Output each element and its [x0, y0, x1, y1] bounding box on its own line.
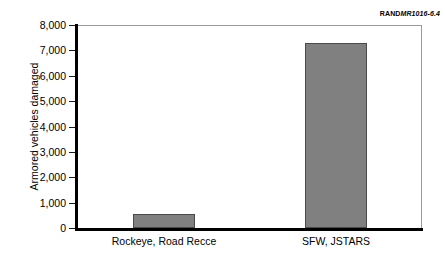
y-axis-tick: [69, 127, 75, 128]
rand-credit: RANDMR1016-6.4: [380, 9, 440, 18]
y-axis-tick-label: 5,000: [6, 96, 66, 106]
y-axis-tick-label: 3,000: [6, 147, 66, 157]
y-axis-line: [75, 24, 78, 231]
y-axis-tick-label: 0: [6, 223, 66, 233]
y-axis-tick: [69, 101, 75, 102]
y-axis-tick-label: 2,000: [6, 172, 66, 182]
y-axis-tick: [69, 25, 75, 26]
y-axis-tick-label: 7,000: [6, 45, 66, 55]
x-axis-category-label: SFW, JSTARS: [250, 235, 422, 247]
y-axis-tick-label: 4,000: [6, 122, 66, 132]
y-axis-tick: [69, 152, 75, 153]
rand-brand-text: RAND: [380, 10, 401, 17]
y-axis-tick-label: 1,000: [6, 198, 66, 208]
y-axis-tick: [69, 228, 75, 229]
y-axis-tick: [69, 203, 75, 204]
y-axis-tick-label: 8,000: [6, 20, 66, 30]
x-axis-category-label: Rockeye, Road Recce: [78, 235, 250, 247]
y-axis-tick: [69, 177, 75, 178]
rand-document-number: MR1016-6.4: [400, 10, 440, 17]
bar-1: [133, 214, 195, 228]
plot-area: [78, 25, 422, 228]
y-axis-tick-label: 6,000: [6, 71, 66, 81]
figure: RANDMR1016-6.4 Armored vehicles damaged …: [0, 0, 445, 262]
bar-2: [305, 43, 367, 228]
y-axis-tick: [69, 76, 75, 77]
x-axis-line: [75, 228, 423, 231]
y-axis-tick: [69, 50, 75, 51]
